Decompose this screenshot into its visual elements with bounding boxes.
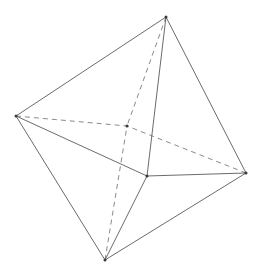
octahedron-wireframe-svg [0,0,260,276]
hidden-edge-right-back [127,126,246,173]
vertex-top [165,16,168,19]
solid-edge-group [16,17,246,260]
vertex-right [245,172,248,175]
solid-edge-front-right [147,173,246,176]
hidden-edge-bottom-back [105,126,127,260]
vertex-front [146,175,149,178]
solid-edge-top-left [16,17,166,116]
vertex-left [15,115,18,118]
hidden-edge-top-back [127,17,166,126]
solid-edge-left-bottom [16,116,105,260]
solid-edge-bottom-right [105,173,246,260]
hidden-edge-left-back [16,116,127,126]
solid-edge-top-right [166,17,246,173]
octahedron-figure-canvas [0,0,260,276]
vertex-bottom [104,259,107,262]
vertex-back [126,125,129,128]
solid-edge-top-front [147,17,166,176]
hidden-edge-group [16,17,246,260]
vertex-group [15,16,248,262]
